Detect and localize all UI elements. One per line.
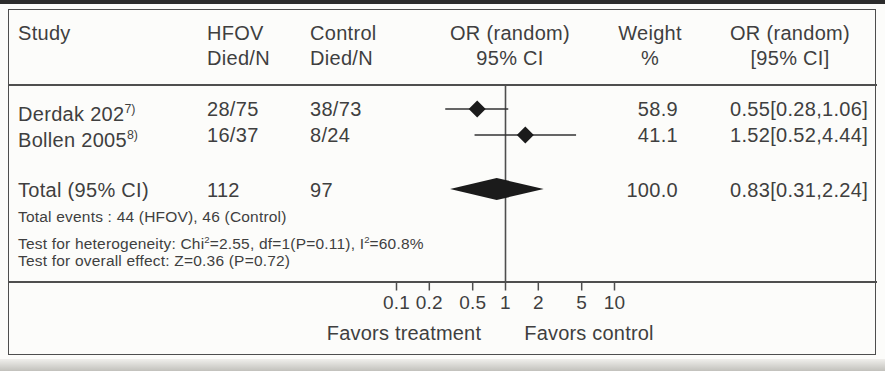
study-name: Bollen 20058) — [18, 124, 138, 151]
total-events-note: Total events : 44 (HFOV), 46 (Control) — [18, 208, 287, 225]
total-or-ci-value: 0.83[0.31,2.24] — [700, 179, 868, 201]
or-plot-header-line1: OR (random) — [450, 21, 570, 46]
column-header-weight: Weight % — [618, 21, 682, 71]
heterogeneity-note-post: =60.8% — [370, 235, 424, 252]
column-header-study: Study — [18, 21, 71, 46]
weight-header-line2: % — [618, 46, 682, 71]
header-divider-line — [8, 84, 877, 86]
or-text-header-line1: OR (random) — [730, 21, 850, 46]
hfov-header-line1: HFOV — [207, 21, 270, 46]
weight-value: 58.9 — [600, 98, 678, 120]
hfov-header-line2: Died/N — [207, 46, 270, 71]
column-header-hfov: HFOV Died/N — [207, 21, 270, 71]
control-header-line2: Died/N — [310, 46, 377, 71]
axis-tick-label: 0.2 — [416, 292, 443, 314]
heterogeneity-note-mid: =2.55, df=1(P=0.11), I — [210, 235, 364, 252]
or-ci-value: 1.52[0.52,4.44] — [700, 124, 868, 146]
axis-tick-label: 0.1 — [383, 292, 410, 314]
study-name-text: Bollen 2005 — [18, 129, 127, 151]
total-hfov-n: 112 — [207, 179, 240, 201]
weight-header-line1: Weight — [618, 21, 682, 46]
control-died-n: 8/24 — [310, 124, 350, 146]
scan-top-edge — [0, 0, 885, 4]
axis-tick-label: 10 — [604, 292, 626, 314]
column-header-or-text: OR (random) [95% CI] — [730, 21, 850, 71]
hfov-died-n: 16/37 — [207, 124, 259, 146]
favors-treatment-label: Favors treatment — [327, 322, 481, 344]
study-reference-superscript: 8) — [127, 128, 138, 142]
study-reference-superscript: 7) — [124, 102, 135, 116]
axis-divider-line — [8, 281, 877, 283]
column-header-or-plot: OR (random) 95% CI — [450, 21, 570, 71]
control-header-line1: Control — [310, 21, 377, 46]
study-name-text: Derdak 202 — [18, 103, 124, 125]
or-text-header-line2: [95% CI] — [730, 46, 850, 71]
total-weight-value: 100.0 — [600, 179, 678, 201]
heterogeneity-note-pre: Test for heterogeneity: Chi — [18, 235, 204, 252]
axis-tick-label: 1 — [500, 292, 511, 314]
total-label: Total (95% CI) — [18, 179, 149, 201]
overall-effect-note: Test for overall effect: Z=0.36 (P=0.72) — [18, 252, 290, 269]
hfov-died-n: 28/75 — [207, 98, 259, 120]
weight-value: 41.1 — [600, 124, 678, 146]
axis-tick-label: 5 — [576, 292, 587, 314]
scan-bottom-edge — [0, 359, 885, 371]
study-name: Derdak 2027) — [18, 98, 135, 125]
control-died-n: 38/73 — [310, 98, 362, 120]
forest-plot-figure: Study HFOV Died/N Control Died/N OR (ran… — [0, 0, 885, 371]
or-ci-value: 0.55[0.28,1.06] — [700, 98, 868, 120]
axis-tick-label: 2 — [533, 292, 544, 314]
heterogeneity-note: Test for heterogeneity: Chi2=2.55, df=1(… — [18, 231, 424, 252]
column-header-control: Control Died/N — [310, 21, 377, 71]
axis-tick-label: 0.5 — [459, 292, 486, 314]
column-header-study-label: Study — [18, 21, 71, 46]
total-control-n: 97 — [310, 179, 333, 201]
or-plot-header-line2: 95% CI — [450, 46, 570, 71]
favors-control-label: Favors control — [524, 322, 654, 344]
